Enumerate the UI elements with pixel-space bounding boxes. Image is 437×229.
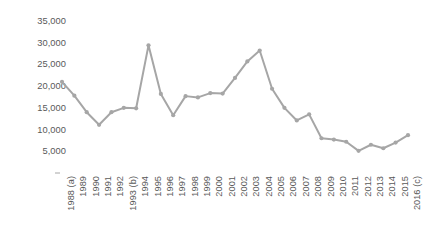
x-axis-tick-label: 2004	[264, 176, 274, 197]
x-axis-tick-label: 2014	[387, 176, 397, 197]
x-axis-tick-label: 1989	[78, 176, 88, 197]
x-axis-tick-label: 1995	[153, 176, 163, 197]
x-axis-tick-label: 1993 (b)	[128, 176, 138, 211]
x-axis-tick-label: 1988 (a)	[66, 176, 76, 211]
x-axis-tick-label: 1998	[190, 176, 200, 197]
x-axis-tick-label: 2005	[276, 176, 286, 197]
line-chart: 35,00030,00025,00020,00015,00010,0005,00…	[0, 0, 437, 229]
x-axis-tick-label: 1999	[202, 176, 212, 197]
x-axis-tick-label: 2003	[251, 176, 261, 197]
x-axis-tick-label: 1991	[103, 176, 113, 197]
x-axis-tick-label: 1996	[165, 176, 175, 197]
x-axis-tick-label: 2011	[350, 176, 360, 196]
x-axis-tick-label: 1990	[91, 176, 101, 197]
x-axis-tick-label: 2009	[326, 176, 336, 197]
x-axis-tick-label: 2006	[288, 176, 298, 197]
x-axis-tick-label: 2016 (c)	[412, 176, 422, 210]
x-axis-tick-label: 2013	[375, 176, 385, 197]
x-axis-tick-label: 2015	[400, 176, 410, 197]
x-axis-tick-label: 1994	[140, 176, 150, 197]
x-axis-tick-label: 2010	[338, 176, 348, 197]
x-axis-tick-label: 1997	[177, 176, 187, 197]
x-axis-tick-label: 2007	[301, 176, 311, 197]
x-axis-tick-label: 2012	[363, 176, 373, 197]
x-axis-tick-label: 2008	[313, 176, 323, 197]
x-axis-tick-label: 2002	[239, 176, 249, 197]
x-axis: 1988 (a)19891990199119921993 (b)19941995…	[0, 0, 437, 229]
x-axis-tick-label: 2001	[227, 176, 237, 197]
x-axis-tick-label: 2000	[214, 176, 224, 197]
x-axis-tick-label: 1992	[115, 176, 125, 197]
